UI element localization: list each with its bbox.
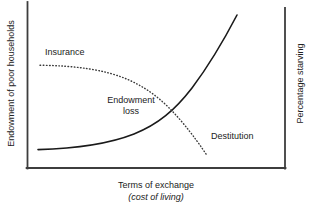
y-axis-label-left: Endowment of poor households bbox=[6, 0, 17, 169]
annotation-endowment-loss-line1: Endowment bbox=[107, 95, 155, 105]
x-axis-label-sub: (cost of living) bbox=[27, 192, 285, 204]
annotation-destitution: Destitution bbox=[211, 131, 254, 142]
x-axis-label: Terms of exchange (cost of living) bbox=[27, 180, 285, 203]
annotation-insurance: Insurance bbox=[45, 47, 85, 58]
annotation-endowment-loss-line2: loss bbox=[123, 106, 139, 116]
chart-figure: Endowment of poor households Percentage … bbox=[0, 0, 310, 210]
curve-endowment-loss bbox=[38, 15, 237, 150]
x-axis-label-main: Terms of exchange bbox=[118, 180, 194, 190]
y-axis-label-right: Percentage starving bbox=[295, 0, 306, 169]
annotation-endowment-loss: Endowment loss bbox=[100, 95, 162, 117]
